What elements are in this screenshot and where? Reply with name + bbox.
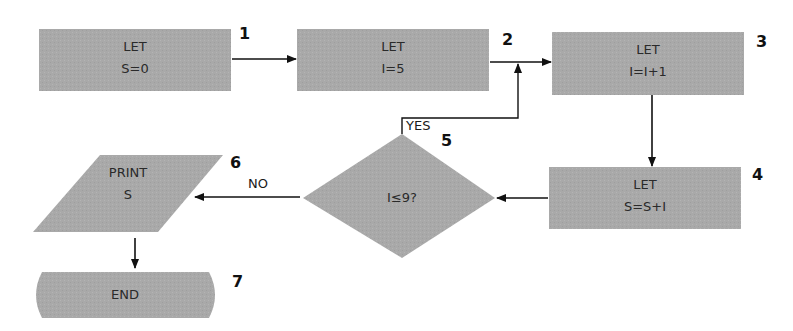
flowchart: LET S=0 LET I=5 LET I=I+1 LET S=S+I I≤9?… <box>0 0 793 331</box>
step-number-2: 2 <box>502 30 513 49</box>
node-decision <box>303 134 495 258</box>
step-number-4: 4 <box>752 165 763 184</box>
node-let-s-0 <box>39 29 231 91</box>
step-number-6: 6 <box>230 153 241 172</box>
step-number-5: 5 <box>441 131 452 150</box>
step-number-1: 1 <box>239 24 250 43</box>
step-number-3: 3 <box>756 32 767 51</box>
branch-label-yes: YES <box>406 118 430 133</box>
step-number-7: 7 <box>232 272 243 291</box>
branch-label-no: NO <box>248 176 268 191</box>
node-let-i-5 <box>297 29 489 91</box>
node-print <box>33 155 223 232</box>
node-let-i-increment <box>552 32 744 95</box>
node-end <box>36 272 215 318</box>
node-let-s-sum <box>549 167 741 229</box>
